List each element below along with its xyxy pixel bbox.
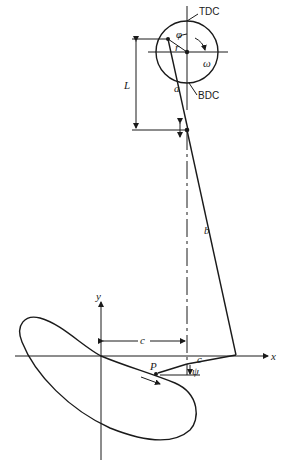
y-axis-label: y (95, 290, 101, 302)
link-b (187, 130, 236, 355)
crank-group: TDC BDC φ r ω (148, 6, 228, 110)
bdc-label: BDC (198, 90, 219, 101)
L-label: L (123, 79, 130, 91)
link-to-P (158, 364, 187, 373)
coupler-curve (20, 317, 197, 440)
P-label: P (149, 360, 157, 372)
omega-label: ω (203, 57, 211, 69)
tdc-leader (187, 14, 198, 21)
x-axis-label: x (270, 350, 276, 362)
b-label: b (204, 224, 210, 236)
tdc-label: TDC (199, 6, 220, 17)
omega-arrow-icon (195, 38, 205, 50)
c-label: c (140, 334, 145, 346)
direction-arrow-icon (141, 377, 160, 384)
bdc-leader (189, 83, 197, 95)
coordinate-axes: x y (15, 290, 276, 460)
linkage-diagram: TDC BDC φ r ω a L b x y c c (0, 0, 281, 468)
c-small-label: c (197, 353, 202, 365)
phi-label: φ (176, 28, 182, 40)
psi-label: ψ (192, 365, 199, 377)
r-label: r (175, 41, 180, 53)
a-label: a (174, 82, 180, 94)
